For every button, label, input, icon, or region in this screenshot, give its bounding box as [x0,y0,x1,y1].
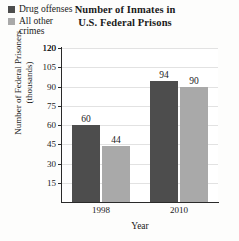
bar-value-label: 60 [81,114,91,124]
bar-value-label: 44 [111,135,121,145]
legend-swatch-icon [8,18,15,25]
bar: 94 [150,81,178,202]
legend-item: All othercrimes [8,16,100,37]
bar: 90 [180,87,208,203]
legend-label: All othercrimes [19,16,53,37]
x-axis-line [61,202,219,203]
x-tick-label: 1998 [92,205,110,215]
y-tick-label: 105 [43,62,57,72]
bar: 60 [72,125,100,202]
chart-legend: Drug offensesAll othercrimes [8,4,100,38]
x-tick-label: 2010 [170,205,188,215]
chart-figure: Number of Inmates in U.S. Federal Prison… [0,0,239,241]
y-tick-label: 90 [47,82,56,92]
bar-value-label: 90 [189,76,199,86]
legend-label: Drug offenses [19,4,72,15]
y-tick-label: 45 [47,139,56,149]
bar-value-label: 94 [159,70,169,80]
y-tick-label: 60 [47,120,56,130]
legend-swatch-icon [8,6,15,13]
bar: 44 [102,146,130,202]
x-axis-title: Year [62,221,218,231]
gridline [62,48,218,49]
y-axis-line [61,47,62,203]
legend-item: Drug offenses [8,4,100,15]
y-tick-label: 30 [47,159,56,169]
y-tick-label: 120 [43,43,57,53]
legend-label-line-2: crimes [19,26,53,37]
y-tick-label: 75 [47,101,56,111]
plot-area: 153045607590105120120 60449490 19982010 [62,48,218,202]
y-tick-label: 15 [47,178,56,188]
gridline [62,67,218,68]
legend-label-line-1: All other [19,16,53,27]
